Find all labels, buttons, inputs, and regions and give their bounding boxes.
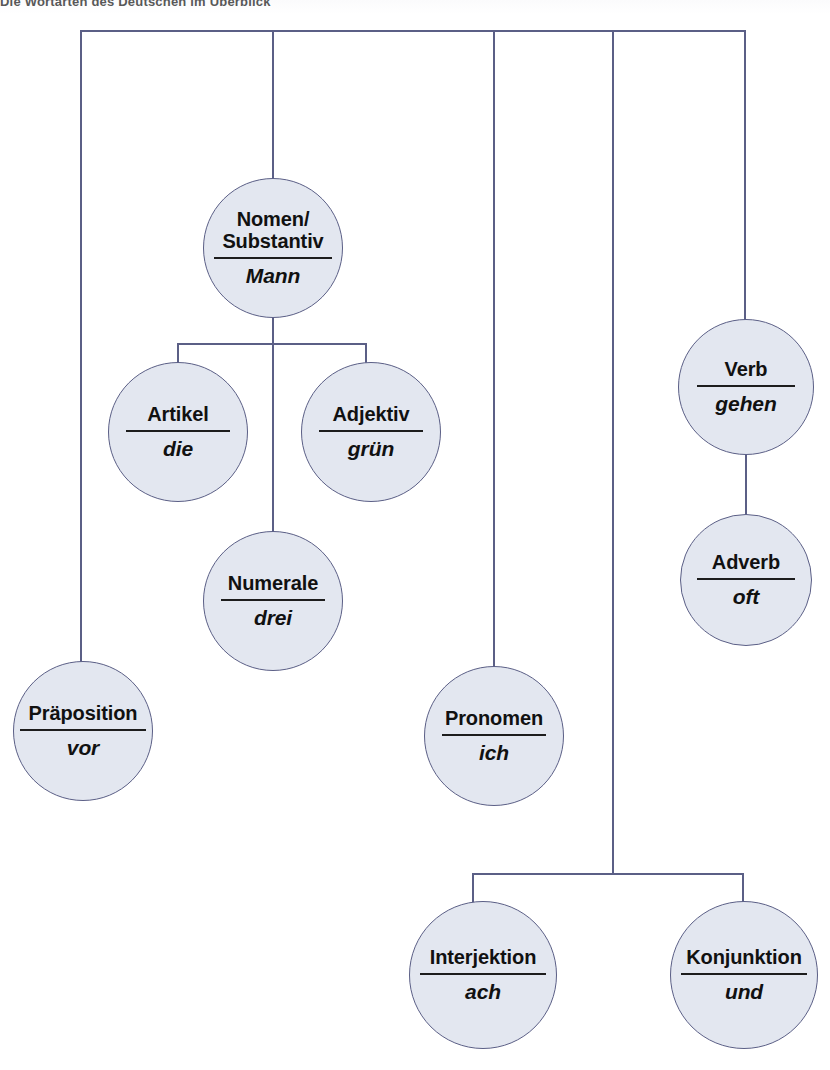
node-nomen-label: Nomen/ Substantiv [218,208,327,253]
node-interjektion[interactable]: Interjektion ach [409,901,557,1049]
node-artikel-divider [126,430,230,432]
node-numerale-example: drei [254,606,292,630]
node-adjektiv-label: Adjektiv [328,403,413,425]
node-konjunktion-label: Konjunktion [682,946,806,968]
clipped-caption: Die Wortarten des Deutschen im Überblick [0,0,830,9]
clipped-caption-text: Die Wortarten des Deutschen im Überblick [0,0,271,8]
node-praeposition-label: Präposition [25,702,142,724]
node-pronomen-label: Pronomen [441,707,547,729]
node-verb-label: Verb [721,358,772,380]
node-pronomen-example: ich [479,741,509,765]
node-nomen-example: Mann [246,264,300,288]
node-nomen-label-line1: Nomen/ [237,208,310,230]
node-adjektiv-divider [319,430,423,432]
diagram-page: Die Wortarten des Deutschen im Überblick [0,0,830,1070]
node-adverb-label: Adverb [708,551,784,573]
node-verb-example: gehen [715,392,776,416]
node-numerale-divider [221,599,325,601]
node-interjektion-example: ach [465,980,501,1004]
node-artikel-example: die [163,437,193,461]
node-konjunktion[interactable]: Konjunktion und [670,901,818,1049]
node-nomen[interactable]: Nomen/ Substantiv Mann [203,178,343,318]
node-verb-divider [697,385,795,387]
node-konjunktion-example: und [725,980,763,1004]
node-praeposition[interactable]: Präposition vor [13,661,153,801]
node-artikel[interactable]: Artikel die [108,362,248,502]
node-adjektiv-example: grün [348,437,394,461]
node-adverb[interactable]: Adverb oft [680,514,812,646]
node-pronomen-divider [442,734,546,736]
node-nomen-label-line2: Substantiv [222,230,323,252]
node-interjektion-label: Interjektion [426,946,541,968]
node-adjektiv[interactable]: Adjektiv grün [301,362,441,502]
node-pronomen[interactable]: Pronomen ich [424,666,564,806]
node-verb[interactable]: Verb gehen [678,319,814,455]
node-adverb-divider [697,578,795,580]
node-konjunktion-divider [681,973,807,975]
node-interjektion-divider [420,973,546,975]
node-nomen-divider [214,257,332,259]
node-numerale[interactable]: Numerale drei [203,531,343,671]
node-praeposition-example: vor [67,736,99,760]
node-numerale-label: Numerale [224,572,322,594]
node-adverb-example: oft [733,585,760,609]
node-praeposition-divider [20,729,146,731]
node-artikel-label: Artikel [143,403,213,425]
